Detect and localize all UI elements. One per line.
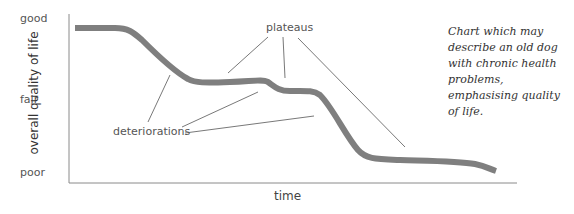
- quality-curve: [75, 28, 496, 171]
- y-tick-good: good: [20, 12, 47, 25]
- x-axis-label: time: [274, 189, 301, 203]
- caption-note: Chart which may describe an old dog with…: [448, 24, 572, 120]
- plateaus-annotation: plateaus: [266, 21, 313, 34]
- deteriorations-annotation: deteriorations: [113, 125, 190, 138]
- y-axis-label: overall quality of life: [27, 31, 41, 154]
- y-tick-poor: poor: [20, 166, 45, 179]
